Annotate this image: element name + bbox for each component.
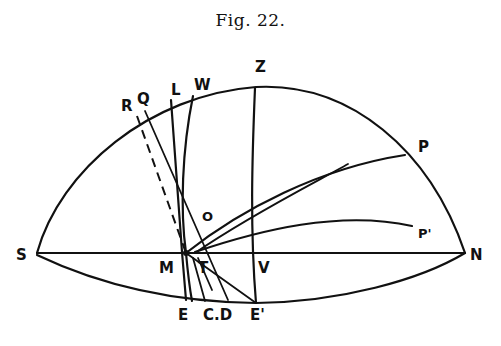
label-E-prime: E' xyxy=(250,306,265,324)
label-L: L xyxy=(171,81,181,99)
line-Z-E-prime xyxy=(252,88,256,303)
curve-M-P-lower xyxy=(195,164,348,253)
upper-meridian-arc xyxy=(37,87,465,253)
label-W: W xyxy=(194,76,211,94)
label-M: M xyxy=(159,259,174,277)
dashed-line-R-M xyxy=(137,116,186,253)
curve-M-P-prime xyxy=(195,220,412,252)
label-N: N xyxy=(470,246,483,264)
label-T: T xyxy=(198,259,209,277)
line-M-E-prime xyxy=(186,253,256,303)
label-Z: Z xyxy=(255,58,266,76)
label-V: V xyxy=(258,259,270,277)
label-O: O xyxy=(202,209,213,224)
label-S: S xyxy=(16,246,27,264)
label-P: P xyxy=(418,138,429,156)
point-M-dot xyxy=(183,250,189,256)
label-R: R xyxy=(121,97,133,115)
label-E: E xyxy=(178,306,188,324)
lower-arc xyxy=(37,253,465,303)
label-P-prime: P' xyxy=(418,226,432,241)
label-Q: Q xyxy=(137,90,150,108)
celestial-sphere-diagram: R Q L W Z P P' O S N M T V E C.D E' xyxy=(0,0,501,346)
label-C-D: C.D xyxy=(203,306,232,324)
